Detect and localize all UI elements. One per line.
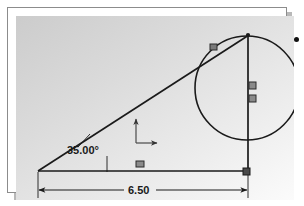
drawing-canvas[interactable]: 35.00° 6.50 [16, 16, 294, 200]
sketch-canvas-svg[interactable]: 35.00° 6.50 [16, 16, 294, 200]
angle-dimension-label[interactable]: 35.00° [67, 144, 99, 156]
sketch-screenshot: 35.00° 6.50 [0, 0, 304, 206]
length-dimension-label[interactable]: 6.50 [128, 184, 149, 196]
canvas-background [16, 16, 294, 200]
tangent-constraint-marker[interactable] [210, 44, 217, 50]
bullet-point-marker [294, 37, 299, 42]
radius-constraint-marker[interactable] [249, 82, 256, 89]
coincident-constraint-marker[interactable] [243, 168, 250, 175]
apex-vertex[interactable] [246, 33, 250, 37]
horizontal-constraint-marker[interactable] [136, 161, 144, 167]
sketch-window-frame: 35.00° 6.50 [7, 7, 287, 193]
equal-constraint-marker[interactable] [249, 95, 256, 102]
